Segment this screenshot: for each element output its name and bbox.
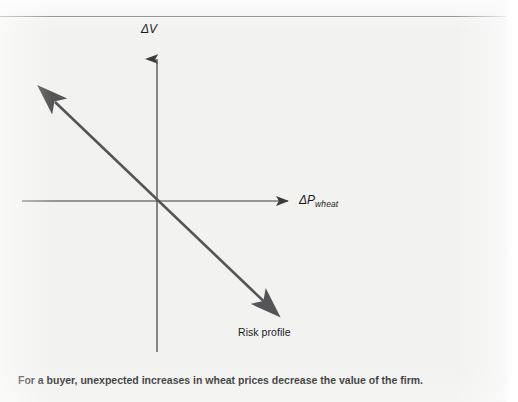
x-axis-label-main: ΔP — [299, 193, 315, 207]
risk-profile-label: Risk profile — [238, 327, 291, 338]
page-right-edge — [505, 0, 518, 402]
x-axis-label-subscript: wheat — [315, 199, 338, 209]
x-axis-label: ΔPwheat — [299, 194, 338, 209]
figure-page: ΔV ΔPwheat Risk profile For a buyer, une… — [0, 0, 518, 402]
risk-profile-chart — [0, 17, 518, 357]
y-axis-label: ΔV — [141, 23, 157, 35]
figure-caption: For a buyer, unexpected increases in whe… — [18, 374, 423, 386]
risk-profile-line — [55, 102, 276, 313]
